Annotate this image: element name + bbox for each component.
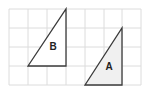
diagram-canvas: B A <box>0 0 147 88</box>
triangle-a-label: A <box>105 61 112 72</box>
background <box>0 0 147 88</box>
grid-diagram: B A <box>0 0 147 88</box>
triangle-b-label: B <box>49 41 56 52</box>
